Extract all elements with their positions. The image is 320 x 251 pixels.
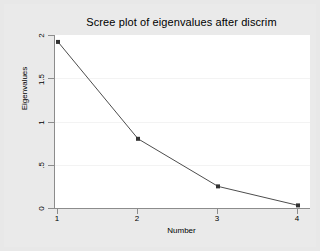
data-point-marker xyxy=(296,203,300,207)
scree-plot-screenshot: Scree plot of eigenvalues after discrim … xyxy=(0,0,320,251)
x-tick-label: 2 xyxy=(127,214,147,223)
y-tick-label: .5 xyxy=(37,153,46,179)
data-point-marker xyxy=(136,137,140,141)
chart-title: Scree plot of eigenvalues after discrim xyxy=(54,16,309,28)
data-point-marker xyxy=(56,40,60,44)
y-tick-label: 1 xyxy=(37,109,46,135)
y-tick-label: 0 xyxy=(37,196,46,222)
plot-area xyxy=(54,35,310,209)
x-tick-label: 1 xyxy=(47,214,67,223)
y-axis-title: Eigenvalues xyxy=(20,44,29,134)
y-tick-label: 2 xyxy=(37,23,46,49)
x-tick-label: 3 xyxy=(207,214,227,223)
scree-line-series xyxy=(55,35,310,208)
y-tick-label: 1.5 xyxy=(37,66,46,92)
x-axis-title: Number xyxy=(54,226,309,235)
x-tick-label: 4 xyxy=(287,214,307,223)
graph-region: Scree plot of eigenvalues after discrim … xyxy=(4,4,316,247)
data-point-marker xyxy=(216,184,220,188)
series-line xyxy=(58,42,298,205)
